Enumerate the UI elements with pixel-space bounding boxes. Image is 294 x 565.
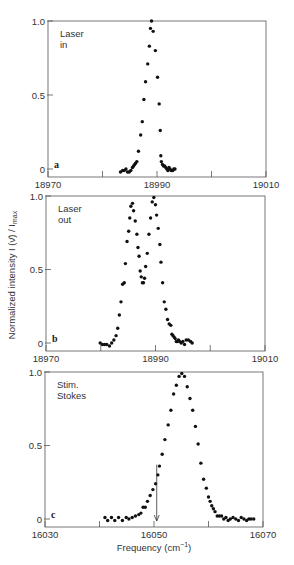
x-tick-label: 16030 <box>32 529 58 540</box>
x-tick-label: 16050 <box>141 529 167 540</box>
data-point <box>131 202 134 205</box>
data-point <box>224 516 227 519</box>
data-point <box>157 102 160 105</box>
panel-letter: c <box>51 509 56 520</box>
y-tick-label: 1.0 <box>32 16 45 27</box>
x-tick-label: 19010 <box>253 179 279 190</box>
panel-label: Stim. <box>57 379 79 390</box>
data-point <box>150 19 153 22</box>
data-point <box>129 205 132 208</box>
data-point <box>125 240 128 243</box>
data-point <box>146 500 149 503</box>
data-point <box>148 44 151 47</box>
data-point <box>188 397 191 400</box>
y-tick-label: 0 <box>37 514 42 525</box>
y-tick-label: 0.5 <box>29 440 42 451</box>
data-point <box>146 62 149 65</box>
data-point <box>135 233 138 236</box>
data-point <box>202 478 205 481</box>
data-point <box>151 488 154 491</box>
data-point <box>151 200 154 203</box>
data-point <box>181 340 184 343</box>
data-point <box>112 338 115 341</box>
data-point <box>146 252 149 255</box>
data-point <box>183 343 186 346</box>
data-point <box>177 375 180 378</box>
data-point <box>117 516 120 519</box>
panel-b: 00.51.0189701899019010bLaserout <box>30 191 278 365</box>
data-point <box>129 169 132 172</box>
x-axis-label: Frequency (cm−1) <box>117 541 192 553</box>
data-point <box>118 313 121 316</box>
data-point <box>132 209 135 212</box>
data-point <box>174 337 177 340</box>
data-point <box>213 510 216 513</box>
x-tick-label: 19010 <box>252 353 278 364</box>
data-point <box>163 300 166 303</box>
data-point <box>158 464 161 467</box>
data-point <box>166 423 169 426</box>
y-tick-label: 0 <box>38 338 43 349</box>
data-point <box>110 516 113 519</box>
data-point <box>186 385 189 388</box>
data-point <box>220 514 223 517</box>
data-point <box>175 384 178 387</box>
panel-c: 00.51.0160301605016070cStim.Stokes <box>29 367 276 541</box>
data-point <box>172 392 175 395</box>
panel-label: Laser <box>58 203 82 214</box>
data-point <box>134 219 137 222</box>
x-tick-label: 18970 <box>35 179 61 190</box>
data-point <box>151 30 154 33</box>
data-point <box>147 233 150 236</box>
data-point <box>183 375 186 378</box>
figure: 00.51.0189701899019010aLaserin00.51.0189… <box>0 0 294 565</box>
data-point <box>127 230 130 233</box>
data-point <box>137 255 140 258</box>
data-point <box>142 98 145 101</box>
data-point <box>135 160 138 163</box>
panel-letter: b <box>52 333 58 344</box>
data-point <box>156 76 159 79</box>
data-point <box>142 281 145 284</box>
data-point <box>121 519 124 522</box>
x-tick-label: 16070 <box>250 529 276 540</box>
data-point <box>152 196 155 199</box>
data-point <box>237 519 240 522</box>
data-point <box>164 307 167 310</box>
data-point <box>148 494 151 497</box>
data-point <box>205 486 208 489</box>
data-point <box>141 120 144 123</box>
data-point <box>180 372 183 375</box>
data-point <box>140 275 143 278</box>
data-point <box>154 203 157 206</box>
data-point <box>131 516 134 519</box>
data-point <box>108 344 111 347</box>
data-point <box>149 216 152 219</box>
data-point <box>137 150 140 153</box>
plot-frame <box>46 196 265 351</box>
y-axis-label: Normalized intensity I (ν̄) / Imax <box>6 210 18 339</box>
data-point <box>159 260 162 263</box>
panel-label: Stokes <box>57 390 86 401</box>
data-point <box>139 511 142 514</box>
data-point <box>212 507 215 510</box>
panel-letter: a <box>54 159 59 170</box>
data-point <box>138 269 141 272</box>
y-tick-label: 0 <box>40 164 45 175</box>
data-point <box>196 442 199 445</box>
y-tick-label: 0.5 <box>32 90 45 101</box>
data-point <box>124 167 127 170</box>
x-tick-label: 18990 <box>142 353 168 364</box>
data-point <box>169 324 172 327</box>
panel-label: Laser <box>60 28 84 39</box>
data-point <box>159 129 162 132</box>
data-point <box>158 243 161 246</box>
data-point <box>157 227 160 230</box>
panels: 00.51.0189701899019010aLaserin00.51.0189… <box>29 16 279 541</box>
data-point <box>207 495 210 498</box>
data-point <box>161 281 164 284</box>
data-point <box>103 516 106 519</box>
data-point <box>169 409 172 412</box>
data-point <box>191 409 194 412</box>
data-point <box>149 27 152 30</box>
